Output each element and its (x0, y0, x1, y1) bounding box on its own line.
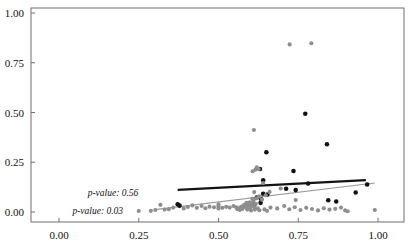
point-gray-points (322, 206, 326, 210)
point-gray-points (200, 204, 204, 208)
plot-canvas: 0.000.250.500.751.00 0.000.250.500.751.0… (0, 0, 409, 246)
point-gray-points (264, 193, 268, 197)
point-gray-points (294, 198, 298, 202)
point-gray-points (252, 128, 256, 132)
point-gray-points (158, 203, 162, 207)
point-gray-points (265, 209, 269, 213)
x-tick-label-1: 0.25 (129, 229, 149, 241)
point-black-points (334, 199, 339, 204)
point-gray-points (212, 205, 216, 209)
p-value-black-annotation: p-value: 0.56 (87, 188, 139, 198)
point-black-points (325, 142, 330, 147)
point-gray-points (203, 206, 207, 210)
point-gray-points (333, 207, 337, 211)
point-gray-points (171, 206, 175, 210)
point-gray-points (339, 206, 343, 210)
y-tick-label-3: 0.75 (5, 57, 25, 69)
point-gray-points (279, 186, 283, 190)
point-gray-points (282, 204, 286, 208)
point-gray-points (261, 181, 265, 185)
point-black-points (326, 198, 331, 203)
point-gray-points (186, 205, 190, 209)
point-gray-points (153, 208, 157, 212)
point-black-points (264, 150, 269, 155)
point-gray-points (287, 207, 291, 211)
point-gray-points (216, 202, 220, 206)
point-gray-points (257, 208, 261, 212)
point-gray-points (182, 206, 186, 210)
point-gray-points (231, 204, 235, 208)
point-gray-points (288, 42, 292, 46)
x-tick-label-3: 0.75 (289, 229, 309, 241)
point-black-points (353, 190, 358, 195)
point-gray-points (327, 208, 331, 212)
point-gray-points (275, 206, 279, 210)
point-gray-points (137, 209, 141, 213)
point-gray-points (253, 208, 257, 212)
x-tick-label-0: 0.00 (49, 229, 69, 241)
point-gray-points (373, 208, 377, 212)
point-gray-points (260, 198, 264, 202)
point-gray-points (149, 209, 153, 213)
point-gray-points (252, 190, 256, 194)
point-gray-points (309, 41, 313, 45)
point-gray-points (293, 205, 297, 209)
point-gray-points (163, 208, 167, 212)
point-gray-points (216, 206, 220, 210)
y-tick-label-1: 0.25 (5, 156, 25, 168)
point-gray-points (208, 205, 212, 209)
point-black-points (303, 111, 308, 116)
y-tick-label-0: 0.00 (5, 206, 25, 218)
point-gray-points (268, 206, 272, 210)
point-black-points (293, 188, 298, 193)
point-gray-points (267, 190, 271, 194)
point-gray-points (346, 209, 350, 213)
point-black-points (284, 186, 289, 191)
point-gray-points (228, 206, 232, 210)
point-black-points (291, 169, 296, 174)
x-tick-label-4: 1.00 (368, 229, 388, 241)
point-gray-points (220, 206, 224, 210)
y-tick-label-2: 0.50 (5, 107, 25, 119)
point-gray-points (249, 208, 253, 212)
point-gray-points (304, 206, 308, 210)
point-black-points (177, 203, 182, 208)
scatter-plot-figure: 0.000.250.500.751.00 0.000.250.500.751.0… (0, 0, 409, 246)
point-gray-points (310, 207, 314, 211)
p-value-gray-annotation: p-value: 0.03 (71, 206, 123, 216)
point-black-points (306, 181, 311, 186)
x-tick-label-2: 0.50 (209, 229, 229, 241)
point-gray-points (224, 205, 228, 209)
point-gray-points (190, 203, 194, 207)
point-gray-points (298, 208, 302, 212)
point-black-points (365, 182, 370, 187)
point-gray-points (195, 206, 199, 210)
y-tick-label-4: 1.00 (5, 7, 25, 19)
point-gray-points (316, 208, 320, 212)
point-gray-points (167, 207, 171, 211)
point-gray-points (257, 167, 261, 171)
point-gray-points (245, 208, 249, 212)
point-gray-points (240, 207, 244, 211)
